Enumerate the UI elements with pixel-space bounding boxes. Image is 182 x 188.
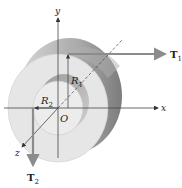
- x-axis-label: x: [161, 103, 166, 113]
- origin-label: O: [60, 113, 68, 124]
- y-axis-label: y: [54, 6, 61, 16]
- t1-label: T1: [170, 49, 182, 63]
- t2-label: T2: [27, 172, 39, 186]
- stepped-cylinder-diagram: y x z O R1 R2 T1 T2: [0, 0, 182, 188]
- z-axis-label: z: [14, 148, 20, 158]
